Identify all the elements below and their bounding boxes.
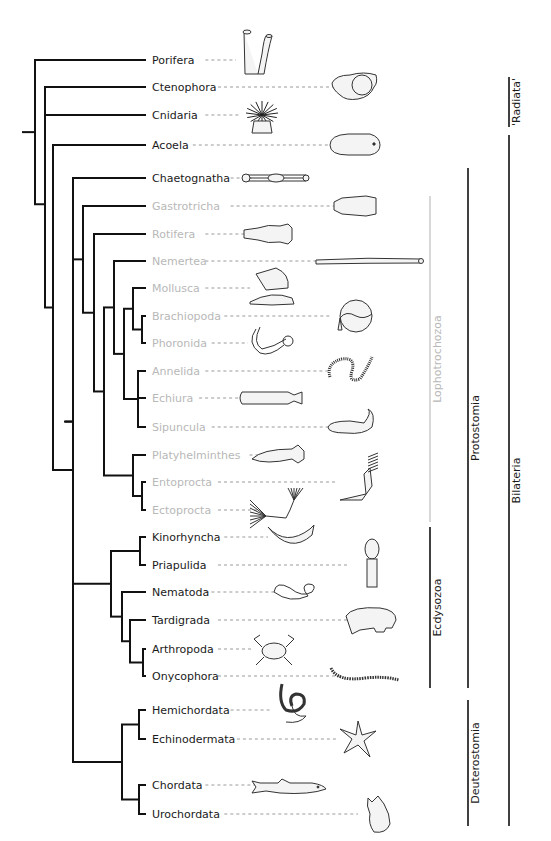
taxon-label-cnidaria: Cnidaria bbox=[152, 109, 198, 122]
nematode-body bbox=[274, 584, 314, 599]
taxon-labels: PoriferaCtenophoraCnidariaAcoelaChaetogn… bbox=[151, 54, 241, 821]
phoronid-lophophore bbox=[283, 336, 293, 346]
arrow-worm-icon bbox=[242, 174, 309, 182]
taxon-label-nemertea: Nemertea bbox=[152, 255, 207, 268]
nemertean-body bbox=[316, 258, 420, 264]
taxon-label-hemichordata: Hemichordata bbox=[152, 704, 230, 717]
taxon-label-platyhelminthes: Platyhelminthes bbox=[152, 449, 241, 462]
sea-squirt-icon bbox=[367, 796, 390, 832]
chaetognath-head bbox=[242, 174, 250, 182]
taxon-label-mollusca: Mollusca bbox=[152, 282, 200, 295]
tardigrade-body bbox=[346, 608, 396, 634]
rotifer-body bbox=[244, 224, 292, 244]
snail-icon bbox=[250, 268, 294, 305]
clade-label-radiata: 'Radiata' bbox=[510, 78, 523, 126]
taxon-label-acoela: Acoela bbox=[152, 139, 189, 152]
phylogenetic-tree: PoriferaCtenophoraCnidariaAcoelaChaetogn… bbox=[0, 0, 551, 841]
comb-jelly-icon bbox=[332, 73, 377, 100]
clade-bars: 'Radiata'LophotrochozoaEcdysozoaProtosto… bbox=[430, 77, 523, 826]
tunicate-body bbox=[367, 796, 390, 832]
flatworm-icon bbox=[252, 445, 304, 463]
bryozoan-tentacle bbox=[250, 508, 266, 516]
starfish-body bbox=[340, 721, 376, 757]
spoon-worm-icon bbox=[240, 392, 302, 404]
tree-branches bbox=[22, 60, 146, 814]
taxon-label-annelida: Annelida bbox=[152, 365, 200, 378]
taxon-label-echiura: Echiura bbox=[152, 392, 193, 405]
acoel-eye bbox=[373, 143, 375, 145]
crab-icon bbox=[254, 635, 294, 665]
taxon-label-arthropoda: Arthropoda bbox=[152, 643, 214, 656]
gastrotrich-icon bbox=[334, 196, 376, 216]
velvet-worm-icon bbox=[331, 668, 399, 680]
taxon-label-chordata: Chordata bbox=[152, 779, 203, 792]
sea-anemone-icon bbox=[246, 101, 278, 133]
rotifer-icon bbox=[244, 224, 292, 244]
mud-dragon-icon bbox=[268, 525, 314, 543]
clade-label-deuterostomia: Deuterostomia bbox=[469, 722, 482, 804]
peanut-worm-icon bbox=[328, 409, 373, 433]
taxon-label-sipuncula: Sipuncula bbox=[152, 421, 206, 434]
hemichordate-tail bbox=[286, 706, 306, 722]
taxon-label-urochordata: Urochordata bbox=[152, 808, 220, 821]
water-bear-icon bbox=[346, 608, 396, 634]
starfish-icon bbox=[340, 721, 376, 757]
sponge-icon bbox=[243, 30, 272, 74]
anemone-column bbox=[252, 121, 272, 133]
gastrotrich-body bbox=[334, 196, 376, 216]
annelid-body bbox=[329, 357, 372, 380]
sponge-osculum bbox=[243, 30, 251, 34]
taxon-label-brachiopoda: Brachiopoda bbox=[152, 310, 221, 323]
phoronid-body bbox=[252, 327, 286, 354]
taxon-label-kinorhyncha: Kinorhyncha bbox=[152, 531, 221, 544]
taxon-label-priapulida: Priapulida bbox=[152, 559, 207, 572]
clade-label-ecdysozoa: Ecdysozoa bbox=[431, 578, 444, 636]
priapulid-proboscis bbox=[365, 539, 379, 559]
organism-illustrations bbox=[240, 30, 424, 832]
clade-label-bilateria: Bilateria bbox=[510, 458, 523, 504]
roundworm-icon bbox=[274, 584, 314, 599]
taxon-label-echinodermata: Echinodermata bbox=[152, 733, 235, 746]
kinorhynch-body bbox=[268, 525, 314, 543]
taxon-label-ctenophora: Ctenophora bbox=[152, 81, 216, 94]
taxon-label-entoprocta: Entoprocta bbox=[152, 476, 212, 489]
chaetognath-tail bbox=[303, 175, 309, 181]
bryozoan-stalk bbox=[266, 500, 294, 518]
priapulid-trunk bbox=[367, 559, 377, 587]
taxon-label-gastrotricha: Gastrotricha bbox=[152, 200, 220, 213]
sponge-osculum bbox=[266, 35, 272, 38]
snail-foot bbox=[250, 295, 294, 305]
echiuran-body bbox=[240, 392, 302, 404]
shark-body bbox=[252, 779, 326, 794]
taxon-label-rotifera: Rotifera bbox=[152, 228, 195, 241]
ribbon-worm-icon bbox=[316, 258, 424, 264]
horseshoe-worm-icon bbox=[252, 327, 293, 354]
entoproct-icon bbox=[340, 453, 378, 500]
acoel-flatworm-icon bbox=[330, 134, 380, 155]
clade-label-protostomia: Protostomia bbox=[469, 395, 482, 461]
bryozoan-icon bbox=[250, 488, 303, 528]
shark-eye bbox=[317, 786, 319, 788]
taxon-label-tardigrada: Tardigrada bbox=[151, 614, 210, 627]
taxon-label-porifera: Porifera bbox=[152, 54, 194, 67]
entoproct-body bbox=[340, 468, 372, 500]
sponge-body bbox=[244, 32, 272, 74]
sipunculan-body bbox=[328, 409, 373, 433]
segmented-worm-icon bbox=[329, 357, 372, 380]
flatworm-body bbox=[252, 445, 304, 463]
clade-label-lophotrochozoa: Lophotrochozoa bbox=[431, 315, 444, 403]
snail-shell bbox=[256, 268, 288, 290]
acorn-worm-icon bbox=[281, 684, 306, 722]
shark-icon bbox=[252, 779, 326, 794]
nemertean-head bbox=[419, 259, 424, 264]
priapulid-icon bbox=[365, 539, 379, 587]
taxon-label-onycophora: Onycophora bbox=[152, 670, 219, 683]
taxon-label-chaetognatha: Chaetognatha bbox=[152, 172, 230, 185]
crab-carapace bbox=[262, 643, 286, 659]
ctenophore-bell bbox=[352, 75, 372, 95]
taxon-label-phoronida: Phoronida bbox=[152, 337, 207, 350]
taxon-label-ectoprocta: Ectoprocta bbox=[152, 504, 211, 517]
chaetognath-fin bbox=[268, 174, 284, 182]
onychophoran-body bbox=[331, 668, 399, 680]
taxon-label-nematoda: Nematoda bbox=[152, 586, 209, 599]
